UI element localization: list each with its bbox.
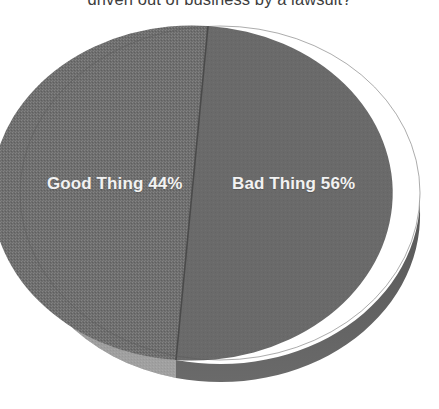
pie-label-bad-thing: Bad Thing 56% [232,174,355,194]
pie-label-good-thing: Good Thing 44% [47,174,183,194]
pie-chart-figure: driven out of business by a lawsuit? [0,0,439,409]
pie-chart-canvas [0,0,439,409]
